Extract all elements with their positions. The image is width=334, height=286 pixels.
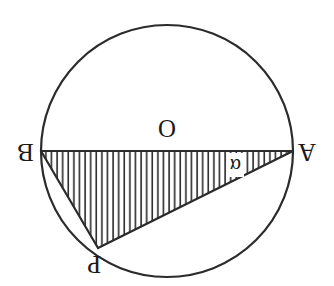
label-center-o: O [158, 116, 176, 141]
label-vertex-p: P [87, 252, 101, 277]
label-angle-alpha: α [227, 153, 244, 177]
shaded-triangle-bpa [41, 151, 293, 248]
geometry-figure: B A O P α [0, 0, 334, 286]
label-vertex-b: B [17, 140, 34, 165]
geometry-canvas [0, 0, 334, 286]
label-vertex-a: A [298, 140, 316, 165]
triangle-hatch-fill [41, 151, 293, 248]
